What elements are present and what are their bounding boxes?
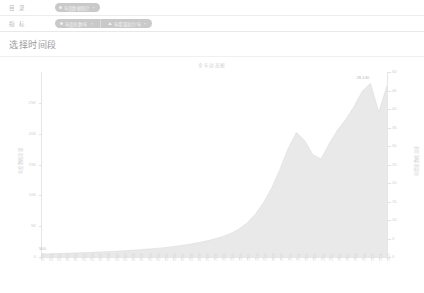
x-axis-tick-label: 1986: [92, 253, 96, 261]
y-axis-right-tick-label: 0: [392, 255, 394, 259]
x-axis-tick-label: 1982: [59, 253, 63, 261]
chart-value-annotation: 500: [39, 247, 46, 251]
y-axis-left-tick-label: 10K: [18, 193, 36, 197]
x-axis-tick-label: 1988: [108, 253, 112, 261]
x-axis-tick-label: 1995: [166, 253, 170, 261]
x-axis-tick-label: 1987: [100, 253, 104, 261]
y-axis-right-tick: [388, 165, 391, 166]
x-axis-tick-label: 1996: [174, 253, 178, 261]
x-axis-tick-label: 2018: [355, 253, 359, 261]
x-axis-tick-label: 2005: [248, 253, 252, 261]
x-axis-tick-label: 1991: [133, 253, 137, 261]
y-axis-right-tick: [388, 91, 391, 92]
x-axis-tick-label: 2004: [240, 253, 244, 261]
x-axis-tick-label: 1998: [191, 253, 195, 261]
y-axis-left-line: [41, 72, 42, 257]
x-axis-tick-label: 2002: [224, 253, 228, 261]
chart-title: 全年动态图: [0, 62, 424, 68]
close-icon[interactable]: ×: [90, 21, 93, 26]
filter-row-metric: 指 标 年度总数/年 × 年增量总计/年 ×: [0, 16, 424, 32]
y-axis-right-tick: [388, 183, 391, 184]
x-axis-tick-label: 1992: [141, 253, 145, 261]
x-axis-tick-label: 2013: [314, 253, 318, 261]
x-axis-tick-label: 1984: [75, 253, 79, 261]
filter-chips-metric: 年度总数/年 × 年增量总计/年 ×: [55, 19, 152, 28]
y-axis-right-tick: [388, 128, 391, 129]
x-axis-tick-label: 1999: [199, 253, 203, 261]
x-axis-tick-label: 1989: [117, 253, 121, 261]
y-axis-right-tick-label: 50: [392, 70, 397, 74]
filter-chip-catalog-label: 年度数据统计: [64, 5, 89, 11]
y-axis-right-tick: [388, 146, 391, 147]
x-axis-tick-label: 2017: [347, 253, 351, 261]
x-axis-tick-label: 2012: [306, 253, 310, 261]
y-axis-right-tick: [388, 109, 391, 110]
x-axis-tick-label: 2015: [331, 253, 335, 261]
y-axis-right-tick-label: 20: [392, 181, 397, 185]
filter-label-metric: 指 标: [9, 20, 55, 28]
chart-plot-area: [41, 72, 387, 257]
y-axis-right-tick: [388, 72, 391, 73]
filter-bar: 目 录 年度数据统计 × 指 标 年度总数/年 ×: [0, 0, 424, 32]
y-axis-left-tick: [39, 226, 42, 227]
x-axis-tick-label: 2014: [323, 253, 327, 261]
x-axis-tick-label: 1993: [150, 253, 154, 261]
x-axis-tick-label: 2010: [290, 253, 294, 261]
filter-row-catalog: 目 录 年度数据统计 ×: [0, 0, 424, 16]
y-axis-right-tick-label: 25: [392, 163, 397, 167]
y-axis-left-tick-label: 5K: [18, 224, 36, 228]
x-axis-tick-label: 1997: [182, 253, 186, 261]
y-axis-right-tick: [388, 220, 391, 221]
filter-chip-metric-increment-label: 年增量总计/年: [114, 21, 141, 27]
x-axis-tick-label: 1985: [84, 253, 88, 261]
x-axis-tick-label: 2007: [265, 253, 269, 261]
y-axis-left-tick-label: 25K: [18, 101, 36, 105]
y-axis-left-tick: [39, 103, 42, 104]
x-axis-tick-label: 2019: [364, 253, 368, 261]
x-axis-tick-label: 2020: [372, 253, 376, 261]
x-axis-tick-label: 2016: [339, 253, 343, 261]
x-axis-tick-label: 2001: [215, 253, 219, 261]
x-axis-tick-label: 2006: [257, 253, 261, 261]
x-axis-tick-label: 1983: [67, 253, 71, 261]
triangle-icon: [108, 22, 112, 25]
x-axis-tick-label: 1990: [125, 253, 129, 261]
x-axis-tick-label: 2009: [281, 253, 285, 261]
filter-chip-group-metric: 年度总数/年 × 年增量总计/年 ×: [55, 19, 152, 28]
y-axis-right-tick: [388, 202, 391, 203]
filter-chip-metric-increment[interactable]: 年增量总计/年 ×: [103, 19, 151, 28]
chart-value-annotation: 28,140: [357, 76, 370, 80]
page-title: 选择时间段: [9, 38, 57, 51]
chart-page: 目 录 年度数据统计 × 指 标 年度总数/年 ×: [0, 0, 424, 293]
dot-icon: [59, 6, 62, 9]
y-axis-right-tick-label: 40: [392, 107, 397, 111]
y-axis-right-tick-label: 5: [392, 237, 394, 241]
x-axis-tick-label: 2008: [273, 253, 277, 261]
filter-chip-catalog[interactable]: 年度数据统计 ×: [55, 3, 100, 12]
x-axis-tick-label: 2011: [298, 253, 302, 261]
area-fill: [41, 83, 387, 257]
y-axis-left-tick: [39, 195, 42, 196]
y-axis-right-tick-label: 35: [392, 126, 397, 130]
y-axis-left-tick: [39, 134, 42, 135]
filter-chip-metric-total[interactable]: 年度总数/年 ×: [55, 19, 98, 28]
y-axis-left-title: 年度数据总量: [17, 131, 23, 191]
x-axis-tick-label: 2003: [232, 253, 236, 261]
x-axis-tick-label: 1994: [158, 253, 162, 261]
y-axis-left-tick: [39, 165, 42, 166]
x-axis-tick-label: 2000: [207, 253, 211, 261]
y-axis-right-tick-label: 45: [392, 89, 397, 93]
filter-chip-metric-total-label: 年度总数/年: [65, 21, 87, 27]
y-axis-right-tick-label: 15: [392, 200, 397, 204]
x-axis-tick-label: 1980: [42, 253, 46, 261]
x-axis-tick-label: 2022: [388, 253, 392, 261]
close-icon[interactable]: ×: [92, 5, 95, 10]
close-icon[interactable]: ×: [144, 21, 147, 26]
dot-icon: [60, 22, 63, 25]
y-axis-right-tick: [388, 239, 391, 240]
area-series: [41, 72, 387, 257]
filter-label-catalog: 目 录: [9, 4, 55, 12]
title-divider: [0, 56, 424, 57]
chip-divider: [100, 19, 101, 28]
y-axis-right-tick-label: 10: [392, 218, 397, 222]
